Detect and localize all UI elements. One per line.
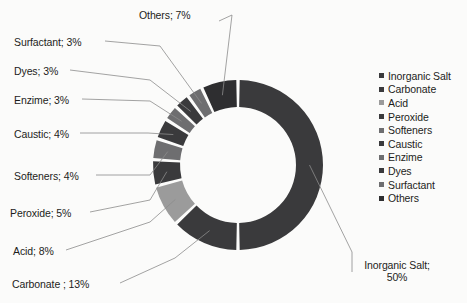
legend-swatch-icon — [379, 168, 384, 173]
legend-swatch-icon — [379, 155, 384, 160]
legend-item[interactable]: Carbonate — [379, 83, 467, 97]
callout-label-acid: Acid; 8% — [13, 245, 54, 257]
leader-line — [70, 70, 191, 111]
legend-item[interactable]: Peroxide — [379, 110, 467, 124]
leader-line — [66, 199, 175, 250]
callout-label-peroxide: Peroxide; 5% — [10, 207, 71, 219]
callout-label-inorganic-salt: Inorganic Salt; 50% — [354, 259, 440, 283]
legend-item[interactable]: Others — [379, 191, 467, 205]
callout-label-softeners: Softeners; 4% — [14, 170, 79, 182]
leader-line — [105, 41, 202, 103]
callout-label-dyes: Dyes; 3% — [14, 65, 58, 77]
donut-slice — [239, 80, 323, 250]
legend-item-label: Others — [388, 192, 419, 204]
callout-label-others: Others; 7% — [139, 9, 191, 21]
legend-swatch-icon — [379, 114, 384, 119]
legend-item[interactable]: Surfactant — [379, 178, 467, 192]
legend-item[interactable]: Inorganic Salt — [379, 69, 467, 83]
legend-swatch-icon — [379, 100, 384, 105]
callout-label-surfactant: Surfactant; 3% — [14, 36, 81, 48]
legend-item-label: Inorganic Salt — [388, 70, 451, 82]
legend-item-label: Acid — [388, 97, 408, 109]
legend-item[interactable]: Caustic — [379, 137, 467, 151]
leader-line — [82, 99, 182, 121]
chart-legend: Inorganic SaltCarbonateAcidPeroxideSofte… — [379, 69, 467, 205]
legend-item-label: Carbonate — [388, 83, 436, 95]
legend-item-label: Dyes — [388, 165, 412, 177]
chart-canvas: Others; 7% Surfactant; 3% Dyes; 3% Enzim… — [0, 0, 467, 303]
legend-swatch-icon — [379, 141, 384, 146]
legend-swatch-icon — [379, 196, 384, 201]
legend-item[interactable]: Dyes — [379, 164, 467, 178]
legend-swatch-icon — [379, 182, 384, 187]
legend-item[interactable]: Acid — [379, 96, 467, 110]
legend-item-label: Softeners — [388, 124, 432, 136]
legend-item-label: Surfactant — [388, 179, 435, 191]
legend-swatch-icon — [379, 128, 384, 133]
legend-item[interactable]: Enzime — [379, 151, 467, 165]
legend-item[interactable]: Softeners — [379, 123, 467, 137]
callout-label-caustic: Caustic; 4% — [14, 128, 69, 140]
callout-label-enzime: Enzime; 3% — [14, 94, 69, 106]
donut-slice-group — [153, 80, 323, 250]
legend-swatch-icon — [379, 87, 384, 92]
legend-swatch-icon — [379, 73, 384, 78]
donut-slice — [177, 206, 237, 250]
callout-label-carbonate: Carbonate ; 13% — [12, 278, 89, 290]
legend-item-label: Caustic — [388, 138, 422, 150]
legend-item-label: Peroxide — [388, 111, 429, 123]
legend-item-label: Enzime — [388, 151, 422, 163]
